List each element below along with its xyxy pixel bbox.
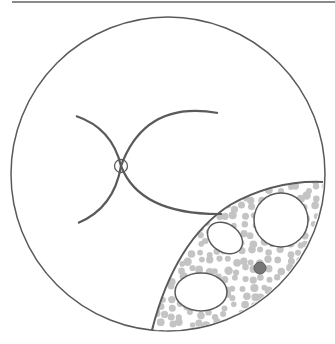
granule — [313, 183, 319, 189]
granule — [139, 319, 145, 325]
granule — [270, 324, 276, 330]
granule — [242, 213, 249, 220]
granule — [293, 291, 299, 297]
granule — [178, 203, 184, 209]
granule — [151, 274, 158, 281]
granule — [151, 185, 157, 191]
granule — [233, 270, 239, 276]
granule — [291, 322, 299, 330]
granule — [229, 286, 235, 292]
granule — [321, 220, 329, 228]
granule — [243, 276, 249, 282]
granule — [320, 295, 328, 303]
granule-field — [139, 174, 331, 339]
granule — [315, 239, 322, 246]
granule — [268, 329, 274, 335]
granule — [144, 295, 152, 303]
granule — [139, 240, 145, 246]
granule — [198, 214, 204, 220]
granule — [197, 196, 203, 202]
granule — [257, 314, 264, 321]
granule — [265, 180, 271, 186]
granule — [323, 196, 330, 203]
granule — [243, 292, 251, 300]
cell-diagram — [0, 0, 335, 344]
granule — [147, 242, 154, 249]
granule — [177, 212, 183, 218]
granule — [221, 330, 227, 336]
granule — [286, 176, 294, 184]
granule — [292, 328, 300, 336]
granule — [193, 185, 200, 192]
granule — [187, 230, 193, 236]
granule — [150, 285, 156, 291]
granule — [288, 292, 296, 300]
granule — [140, 266, 147, 273]
granule — [201, 178, 209, 186]
granule — [319, 238, 327, 246]
granule — [184, 215, 191, 222]
granule — [189, 265, 195, 271]
granule — [279, 177, 285, 183]
dark-dot — [254, 262, 266, 274]
granule — [287, 318, 295, 326]
granule — [167, 187, 175, 195]
granule — [211, 268, 217, 274]
granule — [158, 287, 164, 293]
granule — [216, 331, 222, 337]
granule — [302, 191, 310, 199]
granule — [161, 311, 168, 318]
granule — [321, 210, 328, 217]
granule — [169, 212, 177, 220]
granule — [231, 194, 238, 201]
granule — [230, 182, 238, 190]
granule — [315, 327, 322, 334]
granule — [199, 257, 205, 263]
granule — [153, 214, 160, 221]
granule — [274, 257, 281, 264]
granule — [313, 196, 320, 203]
granule — [257, 274, 264, 281]
granule — [180, 188, 188, 196]
granule — [267, 296, 274, 303]
granule — [271, 303, 277, 309]
granule — [303, 264, 311, 272]
granule — [324, 305, 330, 311]
granule — [175, 318, 183, 326]
granule — [197, 250, 203, 256]
granule — [169, 249, 177, 257]
granule — [184, 220, 191, 227]
granule — [240, 188, 247, 195]
granule — [158, 276, 165, 283]
granule — [239, 332, 246, 339]
granule — [232, 275, 238, 281]
granule — [248, 203, 255, 210]
granule — [214, 184, 222, 192]
granule — [229, 211, 237, 219]
granule — [175, 196, 182, 203]
granule — [211, 176, 219, 184]
granule — [159, 229, 167, 237]
granule — [288, 315, 294, 321]
granule — [162, 264, 170, 272]
granule — [166, 267, 172, 273]
granule — [286, 283, 292, 289]
granule — [288, 251, 295, 258]
vesicle — [254, 193, 308, 247]
granule — [247, 197, 254, 204]
granule — [267, 309, 275, 317]
granule — [141, 230, 149, 238]
granule — [323, 311, 330, 318]
granule — [229, 295, 235, 301]
granule — [178, 233, 184, 239]
granule — [157, 237, 165, 245]
granule — [312, 256, 319, 263]
granule — [278, 268, 286, 276]
granule — [309, 283, 317, 291]
granule — [314, 304, 320, 310]
granule — [153, 296, 159, 302]
granule — [188, 250, 196, 258]
granule — [221, 213, 228, 220]
granule — [231, 321, 239, 329]
granule — [206, 256, 213, 263]
